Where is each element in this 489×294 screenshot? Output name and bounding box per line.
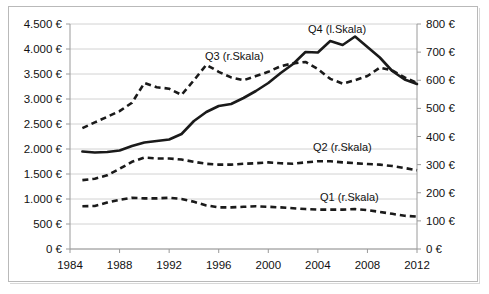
right-axis-tick-label: 300 € — [426, 159, 455, 171]
right-axis-tick-label: 100 € — [426, 215, 455, 227]
series-annotation-q1: Q1 (r.Skala) — [320, 191, 379, 203]
series-annotation-q2: Q2 (r.Skala) — [313, 141, 372, 153]
data-series — [82, 37, 417, 217]
series-annotations: Q4 (l.Skala)Q3 (r.Skala)Q2 (r.Skala)Q1 (… — [205, 23, 379, 203]
right-axis-tick-label: 700 € — [426, 46, 455, 58]
right-axis-tick-label: 200 € — [426, 187, 455, 199]
left-axis-tick-label: 500 € — [33, 218, 62, 230]
chart-container: 0 €500 €1.000 €1.500 €2.000 €2.500 €3.00… — [0, 0, 489, 294]
series-annotation-q3: Q3 (r.Skala) — [205, 50, 264, 62]
x-axis-tick-label: 2000 — [255, 259, 281, 271]
left-axis-tick-label: 3.000 € — [24, 93, 63, 105]
x-axis-tick-label: 2008 — [355, 259, 381, 271]
x-axis-tick-label: 2004 — [305, 259, 331, 271]
left-axis-tick-label: 2.000 € — [24, 143, 63, 155]
right-axis-tick-label: 800 € — [426, 18, 455, 30]
x-axis-tick-label: 1984 — [57, 259, 83, 271]
left-axis-tick-label: 0 € — [46, 243, 63, 255]
left-axis-tick-label: 1.500 € — [24, 168, 63, 180]
right-axis-tick-label: 400 € — [426, 131, 455, 143]
line-chart-plot: 0 €500 €1.000 €1.500 €2.000 €2.500 €3.00… — [0, 0, 489, 294]
left-axis-tick-labels: 0 €500 €1.000 €1.500 €2.000 €2.500 €3.00… — [24, 18, 63, 255]
right-axis-tick-labels: 0 €100 €200 €300 €400 €500 €600 €700 €80… — [426, 18, 455, 255]
series-annotation-q4: Q4 (l.Skala) — [308, 23, 366, 35]
right-axis-tick-label: 0 € — [426, 243, 443, 255]
x-axis-tick-label: 1996 — [206, 259, 232, 271]
left-axis-tick-label: 4.000 € — [24, 43, 63, 55]
series-line-q2 — [82, 158, 417, 181]
right-axis-tick-label: 500 € — [426, 102, 455, 114]
right-axis-tick-label: 600 € — [426, 74, 455, 86]
left-axis-tick-label: 1.000 € — [24, 193, 63, 205]
x-axis-tick-label: 2012 — [404, 259, 430, 271]
x-axis-tick-label: 1992 — [156, 259, 182, 271]
left-axis-tick-label: 2.500 € — [24, 118, 63, 130]
x-axis-tick-labels: 19841988199219962000200420082012 — [57, 259, 430, 271]
x-axis-tick-label: 1988 — [107, 259, 133, 271]
left-axis-tick-label: 3.500 € — [24, 68, 63, 80]
left-axis-tick-label: 4.500 € — [24, 18, 63, 30]
